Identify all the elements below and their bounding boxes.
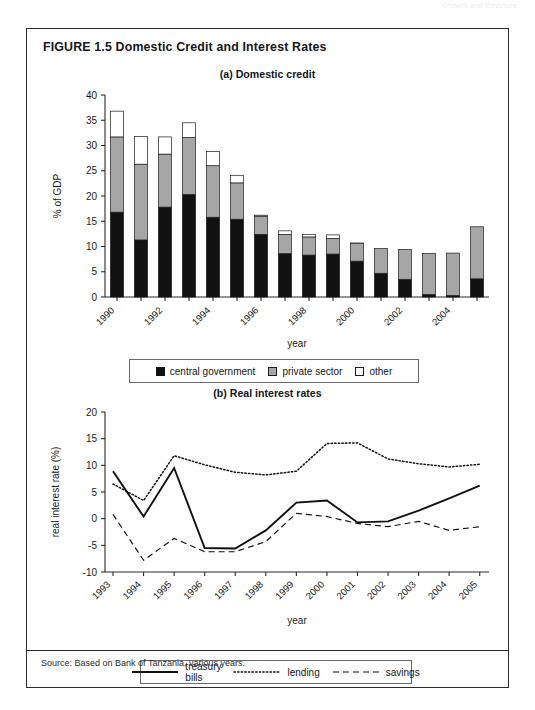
bar-segment: [399, 250, 412, 280]
bar-segment: [303, 255, 316, 297]
treasury-bills-line-icon: [132, 667, 178, 677]
legend-label: private sector: [282, 366, 342, 377]
x-tick-label-a: 1994: [190, 304, 213, 327]
other-swatch-icon: [355, 367, 364, 376]
bar-segment: [399, 279, 412, 297]
bar-segment: [351, 243, 364, 244]
domestic-credit-legend: central government private sector other: [129, 359, 419, 383]
y-tick-label-a: 25: [86, 165, 98, 176]
savings-line-icon: [333, 667, 379, 677]
x-tick-label-b: 1996: [181, 579, 204, 602]
legend-label: other: [369, 366, 392, 377]
y-tick-label-a: 15: [86, 216, 98, 227]
bar-segment: [135, 240, 148, 297]
bar-segment: [255, 215, 268, 216]
panel-a-title: (a) Domestic credit: [27, 68, 508, 80]
private-sector-swatch-icon: [268, 367, 277, 376]
legend-item-private-sector: private sector: [268, 366, 342, 377]
x-axis-title-a: year: [287, 338, 307, 349]
figure-page: Growth and Structure FIGURE 1.5 Domestic…: [0, 0, 535, 710]
x-tick-label-a: 2004: [430, 304, 453, 327]
x-tick-label-a: 2002: [382, 305, 405, 328]
legend-item-savings: savings: [333, 667, 420, 678]
legend-label: central government: [170, 366, 256, 377]
y-axis-title-a: % of GDP: [52, 173, 63, 218]
y-tick-label-a: 0: [91, 292, 97, 303]
bar-segment: [471, 279, 484, 297]
series-line-lending: [113, 443, 480, 501]
bar-segment: [279, 234, 292, 253]
x-tick-label-b: 2004: [426, 578, 449, 601]
x-tick-label-b: 1999: [273, 579, 296, 602]
legend-item-other: other: [355, 366, 392, 377]
x-tick-label-a: 1992: [142, 305, 165, 328]
bar-segment: [471, 227, 484, 279]
y-tick-label-b: -10: [83, 567, 98, 578]
bar-segment: [327, 254, 340, 297]
bar-segment: [279, 254, 292, 297]
bar-segment: [231, 175, 244, 183]
y-tick-label-b: 0: [91, 513, 97, 524]
x-tick-label-b: 1997: [212, 579, 235, 602]
y-tick-label-a: 35: [86, 115, 98, 126]
y-axis-title-b: real interest rate (%): [50, 447, 61, 538]
bar-segment: [207, 166, 220, 218]
bar-segment: [207, 152, 220, 166]
x-tick-label-a: 1998: [286, 305, 309, 328]
bar-segment: [183, 137, 196, 194]
domestic-credit-chart: 0510152025303540% of GDP1990199219941996…: [37, 85, 499, 345]
lending-line-icon: [234, 667, 280, 677]
series-line-treasury-bills: [113, 468, 480, 549]
series-line-savings: [113, 513, 480, 560]
y-tick-label-a: 40: [86, 90, 98, 101]
bar-segment: [183, 194, 196, 297]
bar-segment: [351, 243, 364, 261]
bar-segment: [447, 253, 460, 295]
x-axis-title-b: year: [287, 615, 307, 626]
bar-segment: [279, 231, 292, 235]
bar-segment: [159, 137, 172, 154]
bar-segment: [183, 123, 196, 138]
y-tick-label-b: 20: [86, 407, 98, 418]
legend-label: lending: [287, 667, 319, 678]
bar-segment: [255, 216, 268, 234]
bar-segment: [111, 137, 124, 212]
y-tick-label-a: 30: [86, 140, 98, 151]
bar-segment: [303, 237, 316, 255]
bar-segment: [375, 249, 388, 274]
real-interest-rates-svg: -10-505101520real interest rate (%)19931…: [37, 404, 499, 649]
figure-box: FIGURE 1.5 Domestic Credit and Interest …: [26, 28, 509, 688]
bar-segment: [135, 136, 148, 164]
x-tick-label-b: 2003: [395, 579, 418, 602]
bar-segment: [231, 183, 244, 219]
legend-item-lending: lending: [234, 667, 319, 678]
x-tick-label-b: 2001: [334, 579, 357, 602]
y-tick-label-b: 15: [86, 433, 98, 444]
bar-segment: [303, 234, 316, 237]
bar-segment: [159, 154, 172, 207]
bar-segment: [207, 217, 220, 297]
bar-segment: [111, 212, 124, 297]
x-tick-label-b: 1995: [151, 579, 174, 602]
bar-segment: [111, 111, 124, 137]
bar-segment: [423, 294, 436, 297]
bar-segment: [351, 261, 364, 297]
real-interest-rates-chart: -10-505101520real interest rate (%)19931…: [37, 404, 499, 649]
bar-segment: [327, 238, 340, 254]
x-tick-label-a: 1996: [238, 305, 261, 328]
legend-label: savings: [386, 667, 420, 678]
source-note: Source: Based on Bank of Tanzania, vario…: [41, 658, 245, 668]
bar-segment: [423, 254, 436, 295]
x-tick-label-b: 1998: [242, 579, 265, 602]
central-government-swatch-icon: [156, 367, 165, 376]
y-tick-label-b: -5: [88, 540, 97, 551]
legend-item-central-government: central government: [156, 366, 256, 377]
y-tick-label-b: 10: [86, 460, 98, 471]
y-tick-label-a: 20: [86, 191, 98, 202]
running-head: Growth and Structure: [442, 2, 517, 9]
source-divider: [27, 650, 508, 651]
y-tick-label-b: 5: [91, 487, 97, 498]
x-tick-label-a: 1990: [94, 305, 117, 328]
bar-segment: [327, 235, 340, 239]
bar-segment: [375, 273, 388, 297]
